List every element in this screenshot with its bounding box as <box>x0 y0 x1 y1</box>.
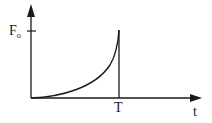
x-marker-label-T: T <box>114 101 123 115</box>
y-label-main: F <box>9 23 17 38</box>
y-label-subscript: o <box>17 31 21 40</box>
x-axis-arrow-icon <box>190 94 202 102</box>
y-axis-arrow-icon <box>27 4 35 17</box>
diagram-canvas <box>0 0 212 123</box>
x-axis-label: t <box>193 105 197 119</box>
force-curve <box>31 30 119 98</box>
y-axis-label: Fo <box>9 24 21 38</box>
